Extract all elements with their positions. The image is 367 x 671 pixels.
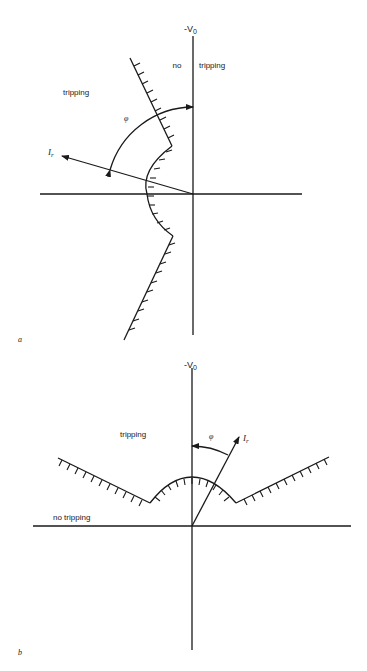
angle-arc-b [192,446,228,455]
hatch-lower-a [129,243,175,330]
region-label-left-a: tripping [63,88,89,97]
region-label-right-a: tripping [199,61,225,70]
diagram-canvas: -V0 no tripping tripping Ir φ a [0,0,367,671]
boundary-arc-b [150,477,236,503]
hatch-right-b [244,459,327,505]
angle-arc-a [110,107,193,170]
panel-label-b: b [18,648,22,657]
region-label-no-a: no [173,61,182,70]
diagram-b [33,368,351,650]
region-label-upper-b: tripping [120,430,146,439]
labels-b: -V0 tripping no tripping Ir φ b [18,360,249,657]
boundary-right-line-b [236,457,329,503]
current-label-a: Ir [47,147,54,159]
labels-a: -V0 no tripping tripping Ir φ a [18,24,225,344]
panel-label-a: a [18,335,22,344]
hatch-upper-a [134,63,174,138]
boundary-lower-line-a [124,236,173,340]
angle-label-a: φ [124,114,129,123]
hatch-arc-a [148,150,172,230]
region-label-lower-b: no tripping [53,513,90,522]
diagram-a [40,36,302,340]
current-label-b: Ir [242,433,249,445]
current-phasor-a [62,156,193,194]
axis-label-b: -V0 [184,360,197,371]
hatch-left-b [59,460,142,506]
axis-label-a: -V0 [184,24,197,35]
angle-label-b: φ [209,432,214,441]
boundary-left-line-b [58,458,150,503]
